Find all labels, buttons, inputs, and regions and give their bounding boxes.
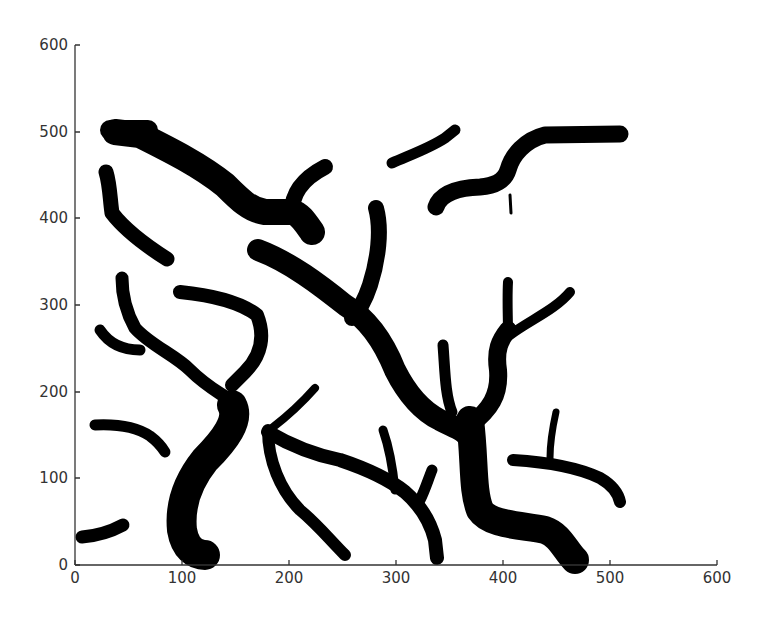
axes: 0 100 200 300 400 500 600 0 100 200 300 … xyxy=(39,36,731,587)
y-tick-label: 100 xyxy=(39,469,68,487)
y-tick-label: 600 xyxy=(39,36,68,54)
y-tick-label: 400 xyxy=(39,209,68,227)
y-tick-label: 500 xyxy=(39,123,68,141)
x-tick-label: 0 xyxy=(70,569,80,587)
structure-top-left-arc xyxy=(106,172,167,259)
structure-right-tree-trunk xyxy=(470,420,575,560)
structure-right-tree-branch-3 xyxy=(510,292,570,335)
structure-lower-center-right-stub xyxy=(420,470,432,500)
structure-right-tree-branch-1 xyxy=(470,330,508,425)
structure-left-short-segment xyxy=(95,425,165,452)
structure-top-right-hook xyxy=(436,134,620,207)
structure-right-tree-branch-4 xyxy=(443,345,452,412)
structure-lower-right-branch-stub xyxy=(550,412,556,458)
x-tick-label: 600 xyxy=(703,569,732,587)
structure-lower-center-upper-stub xyxy=(272,388,315,428)
structure-top-left-band-fork xyxy=(292,167,325,212)
structure-top-center-segment xyxy=(392,130,455,163)
structure-bottom-left-stub xyxy=(82,525,123,537)
x-axis-ticks xyxy=(75,560,717,565)
structure-central-vertical-branch xyxy=(352,208,379,318)
image-plot: 0 100 200 300 400 500 600 0 100 200 300 … xyxy=(0,0,764,621)
y-tick-label: 300 xyxy=(39,296,68,314)
x-tick-label: 100 xyxy=(168,569,197,587)
y-axis-tick-labels: 0 100 200 300 400 500 600 xyxy=(39,36,68,574)
structure-left-tree-trunk xyxy=(182,405,235,555)
structure-top-left-band xyxy=(115,132,312,232)
structure-lower-right-branch xyxy=(513,460,620,502)
structure-top-right-hook-drip xyxy=(510,195,511,213)
x-tick-label: 500 xyxy=(596,569,625,587)
x-axis-tick-labels: 0 100 200 300 400 500 600 xyxy=(70,569,731,587)
x-tick-label: 400 xyxy=(489,569,518,587)
binary-image xyxy=(82,130,620,560)
x-tick-label: 200 xyxy=(275,569,304,587)
y-tick-label: 0 xyxy=(58,556,68,574)
y-axis-ticks xyxy=(75,45,80,565)
y-tick-label: 200 xyxy=(39,383,68,401)
x-tick-label: 300 xyxy=(382,569,411,587)
